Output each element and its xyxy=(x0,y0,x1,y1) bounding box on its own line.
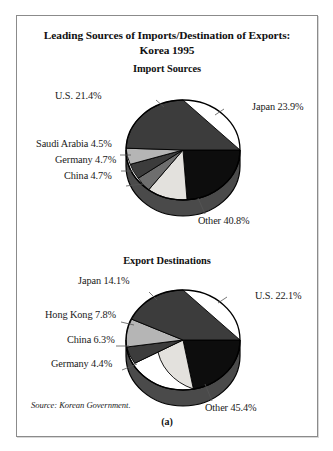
panel-caption: (a) xyxy=(17,416,317,427)
import-label-china: China 4.7% xyxy=(64,170,112,181)
figure-title-line-2: Korea 1995 xyxy=(17,43,317,58)
import-sources-heading: Import Sources xyxy=(17,63,317,74)
import-label-germany: Germany 4.7% xyxy=(55,154,116,165)
export-label-china: China 6.3% xyxy=(67,334,115,345)
export-destinations-pie-graphic xyxy=(108,268,258,418)
source-note: Source: Korean Government. xyxy=(31,400,131,410)
figure-title: Leading Sources of Imports/Destination o… xyxy=(17,28,317,57)
import-label-us: U.S. 21.4% xyxy=(55,90,101,101)
figure-frame: Leading Sources of Imports/Destination o… xyxy=(16,15,318,437)
export-label-japan: Japan 14.1% xyxy=(78,275,130,286)
import-label-other: Other 40.8% xyxy=(198,215,250,226)
import-label-saudi-arabia: Saudi Arabia 4.5% xyxy=(36,138,112,149)
export-label-germany: Germany 4.4% xyxy=(51,358,112,369)
export-destinations-heading: Export Destinations xyxy=(17,255,317,266)
export-label-other: Other 45.4% xyxy=(205,402,257,413)
export-label-hong-kong: Hong Kong 7.8% xyxy=(45,309,116,320)
figure-title-line-1: Leading Sources of Imports/Destination o… xyxy=(17,28,317,43)
export-label-us: U.S. 22.1% xyxy=(255,290,301,301)
import-sources-pie-graphic xyxy=(108,78,258,228)
import-sources-chart: U.S. 21.4% Japan 23.9% Saudi Arabia 4.5%… xyxy=(17,78,317,238)
import-label-japan: Japan 23.9% xyxy=(252,101,304,112)
